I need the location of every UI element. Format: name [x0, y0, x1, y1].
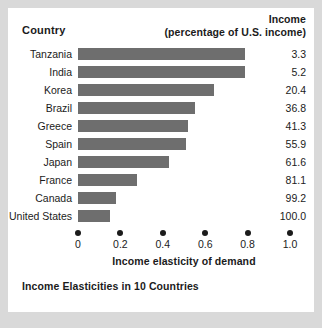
bar	[78, 156, 169, 168]
tick-dot-icon	[287, 230, 293, 236]
bar	[78, 102, 195, 114]
row-income-value: 5.2	[260, 66, 306, 78]
bar-track	[78, 48, 290, 60]
x-axis-tick: 0	[63, 230, 93, 250]
bar	[78, 84, 214, 96]
row-country-label: Tanzania	[8, 48, 72, 60]
bar	[78, 48, 245, 60]
x-axis-tick: 0.6	[190, 230, 220, 250]
bar-track	[78, 66, 290, 78]
chart-row: United States100.0	[8, 208, 314, 226]
chart-row: Korea20.4	[8, 82, 314, 100]
chart-row: Spain55.9	[8, 136, 314, 154]
bar-track	[78, 174, 290, 186]
bar-track	[78, 210, 290, 222]
row-country-label: Korea	[8, 84, 72, 96]
chart-row: France81.1	[8, 172, 314, 190]
x-axis-title: Income elasticity of demand	[78, 255, 290, 267]
bar-chart-plot: Tanzania3.3India5.2Korea20.4Brazil36.8Gr…	[8, 46, 314, 231]
bar	[78, 138, 186, 150]
x-axis-tick-label: 0.6	[190, 238, 220, 250]
x-axis-tick-label: 0.2	[105, 238, 135, 250]
bar-track	[78, 138, 290, 150]
column-header-income-line1: Income	[126, 13, 306, 26]
chart-row: Brazil36.8	[8, 100, 314, 118]
bar	[78, 120, 188, 132]
x-axis-tick: 0.8	[233, 230, 263, 250]
x-axis-tick: 1.0	[275, 230, 305, 250]
x-axis-tick-label: 0.4	[148, 238, 178, 250]
column-header-income: Income (percentage of U.S. income)	[126, 13, 306, 39]
row-income-value: 55.9	[260, 138, 306, 150]
bar-track	[78, 120, 290, 132]
x-axis-tick-label: 1.0	[275, 238, 305, 250]
row-country-label: Japan	[8, 156, 72, 168]
tick-dot-icon	[160, 230, 166, 236]
tick-dot-icon	[75, 230, 81, 236]
row-income-value: 20.4	[260, 84, 306, 96]
x-axis: Income elasticity of demand 00.20.40.60.…	[8, 230, 314, 268]
chart-row: Canada99.2	[8, 190, 314, 208]
x-axis-tick: 0.4	[148, 230, 178, 250]
x-axis-tick-label: 0.8	[233, 238, 263, 250]
bar-track	[78, 84, 290, 96]
row-income-value: 36.8	[260, 102, 306, 114]
row-country-label: United States	[8, 210, 72, 222]
bar-track	[78, 156, 290, 168]
bar	[78, 192, 116, 204]
row-income-value: 3.3	[260, 48, 306, 60]
column-header-country: Country	[22, 24, 66, 36]
chart-row: India5.2	[8, 64, 314, 82]
row-country-label: France	[8, 174, 72, 186]
tick-dot-icon	[117, 230, 123, 236]
chart-row: Tanzania3.3	[8, 46, 314, 64]
row-income-value: 99.2	[260, 192, 306, 204]
bar	[78, 174, 137, 186]
row-income-value: 100.0	[260, 210, 306, 222]
row-income-value: 61.6	[260, 156, 306, 168]
chart-row: Japan61.6	[8, 154, 314, 172]
tick-dot-icon	[245, 230, 251, 236]
chart-row: Greece41.3	[8, 118, 314, 136]
bar-track	[78, 102, 290, 114]
bar	[78, 210, 110, 222]
column-header-income-line2: (percentage of U.S. income)	[126, 26, 306, 39]
row-country-label: India	[8, 66, 72, 78]
x-axis-tick: 0.2	[105, 230, 135, 250]
tick-dot-icon	[202, 230, 208, 236]
chart-card: Country Income (percentage of U.S. incom…	[8, 8, 314, 312]
row-income-value: 81.1	[260, 174, 306, 186]
x-axis-tick-label: 0	[63, 238, 93, 250]
row-country-label: Greece	[8, 120, 72, 132]
bar	[78, 66, 245, 78]
chart-caption: Income Elasticities in 10 Countries	[22, 280, 199, 292]
row-country-label: Brazil	[8, 102, 72, 114]
row-income-value: 41.3	[260, 120, 306, 132]
row-country-label: Spain	[8, 138, 72, 150]
table-header: Country Income (percentage of U.S. incom…	[8, 8, 314, 46]
bar-track	[78, 192, 290, 204]
row-country-label: Canada	[8, 192, 72, 204]
